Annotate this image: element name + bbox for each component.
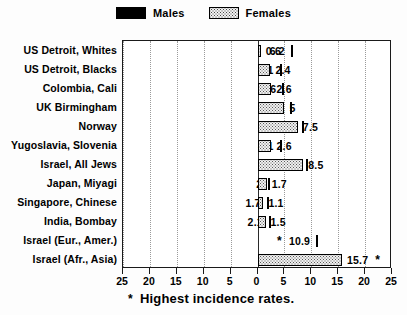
legend-swatch-males-icon — [116, 7, 146, 19]
axis-tick-label: 10 — [304, 275, 316, 287]
chart-caption: * Highest incidence rates. — [128, 291, 294, 306]
axis-tick — [230, 268, 231, 274]
axis-tick-label: 10 — [197, 275, 209, 287]
category-label: US Detroit, Whites — [24, 40, 117, 59]
axis-tick — [257, 268, 258, 274]
bar-female — [258, 216, 266, 228]
axis-tick-label: 5 — [280, 275, 286, 287]
asterisk-icon: * — [128, 293, 133, 305]
plot-area: 6.20.64.12.44.62.66.158.37.54.12.698.521… — [122, 40, 391, 268]
bar-female — [258, 121, 298, 133]
bar-female — [258, 178, 267, 190]
axis-tick-label: 0 — [254, 275, 260, 287]
axis-tick-label: 15 — [331, 275, 343, 287]
category-label: Israel (Eur., Amer.) — [23, 230, 117, 249]
category-label: Israel, All Jews — [40, 154, 117, 173]
bar-row: 8.37.5 — [123, 117, 390, 136]
bar-value-female: 1.1 — [268, 197, 283, 209]
asterisk-icon: * — [375, 253, 380, 267]
bar-value-female: 2.4 — [275, 64, 290, 76]
legend-label-males: Males — [153, 7, 185, 19]
bar-value-female: 0.6 — [266, 45, 281, 57]
axis-tick-label: 5 — [227, 275, 233, 287]
axis-tick-label: 25 — [385, 275, 397, 287]
chart-figure: Males Females US Detroit, WhitesUS Detro… — [0, 0, 407, 315]
legend-label-females: Females — [246, 7, 291, 19]
bar-value-female: 7.5 — [303, 121, 318, 133]
chart-legend: Males Females — [0, 2, 407, 24]
category-label: Yugoslavia, Slovenia — [11, 135, 117, 154]
bar-female — [258, 140, 272, 152]
caption-text: Highest incidence rates. — [140, 291, 294, 306]
legend-swatch-females-icon — [209, 7, 239, 19]
axis-tick-label: 20 — [143, 275, 155, 287]
bar-row: 4.12.6 — [123, 136, 390, 155]
axis-tick-label: 15 — [170, 275, 182, 287]
bar-rows: 6.20.64.12.44.62.66.158.37.54.12.698.521… — [123, 41, 390, 267]
asterisk-icon: * — [277, 234, 282, 248]
axis-tick — [149, 268, 150, 274]
bar-row: 15.7* — [123, 250, 390, 269]
bar-row: 4.12.4 — [123, 60, 390, 79]
bar-row: 2.11.5 — [123, 212, 390, 231]
axis-tick — [203, 268, 204, 274]
bar-row: 21.7 — [123, 174, 390, 193]
bar-female — [258, 254, 342, 266]
bar-female — [258, 159, 304, 171]
bar-row: 4.62.6 — [123, 79, 390, 98]
axis-tick — [122, 268, 123, 274]
category-label: Norway — [78, 116, 117, 135]
legend-item-females: Females — [209, 7, 291, 19]
axis-tick — [283, 268, 284, 274]
bar-row: 1.71.1 — [123, 193, 390, 212]
bar-row: 6.15 — [123, 98, 390, 117]
bar-value-male: *10.9 — [277, 235, 310, 247]
bar-female — [258, 102, 285, 114]
category-label: Singapore, Chinese — [17, 192, 117, 211]
category-label: UK Birmingham — [36, 97, 117, 116]
bar-value-female: 5 — [289, 102, 295, 114]
category-axis-labels: US Detroit, WhitesUS Detroit, BlacksColo… — [0, 40, 117, 268]
bar-male — [268, 178, 270, 190]
legend-item-males: Males — [116, 7, 185, 19]
axis-tick — [364, 268, 365, 274]
axis-tick — [310, 268, 311, 274]
bar-female — [258, 197, 264, 209]
bar-row: 98.5 — [123, 155, 390, 174]
category-label: US Detroit, Blacks — [24, 59, 117, 78]
bar-value-female: 1.7 — [272, 178, 287, 190]
bar-female — [258, 83, 272, 95]
bar-male — [316, 235, 318, 247]
axis-tick — [391, 268, 392, 274]
bar-male — [291, 45, 293, 57]
bar-value-female: 2.6 — [276, 140, 291, 152]
bar-female — [258, 45, 261, 57]
bar-row: *10.9 — [123, 231, 390, 250]
axis-tick-label: 20 — [358, 275, 370, 287]
category-label: Japan, Miyagi — [47, 173, 117, 192]
category-label: Colombia, Cali — [43, 78, 117, 97]
bar-row: 6.20.6 — [123, 41, 390, 60]
axis-tick — [337, 268, 338, 274]
axis-tick-label: 25 — [116, 275, 128, 287]
bar-value-female: 8.5 — [308, 159, 323, 171]
bar-value-female: 2.6 — [276, 83, 291, 95]
category-label: Israel (Afr., Asia) — [33, 249, 117, 268]
bar-female — [258, 64, 271, 76]
bar-value-female: 15.7* — [347, 254, 380, 266]
category-label: India, Bombay — [44, 211, 117, 230]
axis-tick — [176, 268, 177, 274]
bar-value-female: 1.5 — [271, 216, 286, 228]
